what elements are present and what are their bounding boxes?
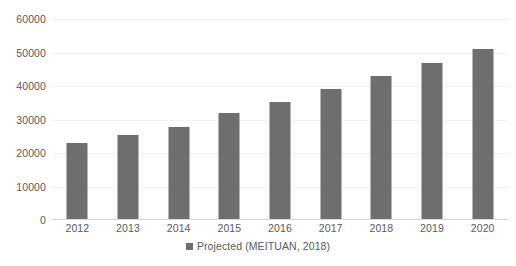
x-axis-line (52, 219, 508, 220)
x-axis-tick-label: 2012 (65, 222, 89, 234)
bar-chart: 0100002000030000400005000060000 20122013… (0, 0, 516, 266)
x-axis-tick-label: 2019 (420, 222, 444, 234)
x-axis-tick-label: 2013 (116, 222, 140, 234)
bar (168, 127, 189, 220)
bar-slot (52, 19, 103, 220)
x-axis-labels: 201220132014201520162017201820192020 (52, 222, 508, 238)
bar-slot (407, 19, 458, 220)
bar-slot (356, 19, 407, 220)
y-axis-labels: 0100002000030000400005000060000 (0, 19, 46, 220)
y-axis-tick-label: 30000 (16, 114, 46, 126)
bar (421, 63, 442, 220)
x-axis-tick-label: 2017 (319, 222, 343, 234)
bar (320, 89, 341, 220)
x-axis-tick-label: 2020 (471, 222, 495, 234)
y-axis-tick-label: 0 (40, 214, 46, 226)
plot-area (52, 19, 508, 220)
x-axis-tick-label: 2018 (369, 222, 393, 234)
bar-series (52, 19, 508, 220)
y-axis-tick-label: 40000 (16, 80, 46, 92)
legend-swatch-icon (186, 243, 193, 250)
bar-slot (305, 19, 356, 220)
legend-label: Projected (MEITUAN, 2018) (197, 240, 330, 252)
bar (371, 76, 392, 220)
y-axis-tick-label: 20000 (16, 147, 46, 159)
bar-slot (204, 19, 255, 220)
bar-slot (457, 19, 508, 220)
bar (472, 49, 493, 220)
x-axis-tick-label: 2016 (268, 222, 292, 234)
bar-slot (255, 19, 306, 220)
x-axis-tick-label: 2014 (167, 222, 191, 234)
y-axis-tick-label: 60000 (16, 13, 46, 25)
y-axis-tick-label: 50000 (16, 47, 46, 59)
bar (219, 113, 240, 220)
bar (269, 102, 290, 220)
bar (117, 135, 138, 220)
bar-slot (103, 19, 154, 220)
x-axis-tick-label: 2015 (217, 222, 241, 234)
chart-legend: Projected (MEITUAN, 2018) (0, 240, 516, 252)
y-axis-tick-label: 10000 (16, 181, 46, 193)
bar-slot (153, 19, 204, 220)
bar (67, 143, 88, 220)
